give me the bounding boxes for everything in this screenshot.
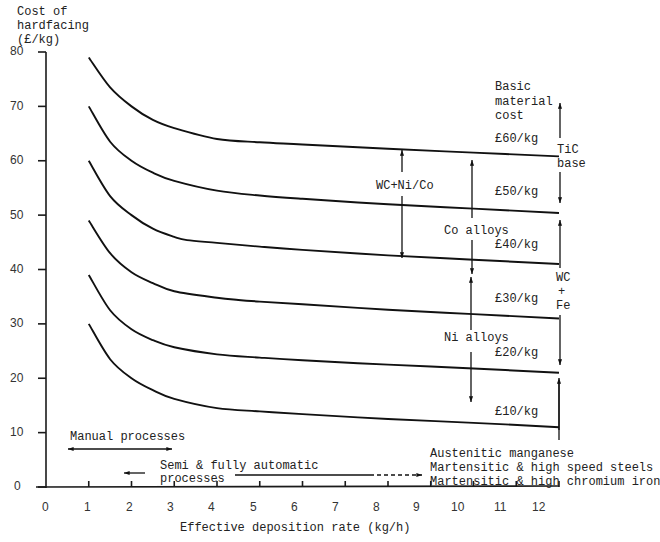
x-tick-11: 11 — [494, 500, 506, 514]
series-curve-4 — [89, 275, 559, 373]
series-label-20: £20/kg — [495, 346, 538, 360]
annotation-material-3: Martensitic & high chromium iron — [430, 475, 660, 489]
x-tick-2: 2 — [126, 500, 133, 514]
x-tick-1: 1 — [84, 500, 91, 514]
series-label-60: £60/kg — [495, 132, 538, 146]
y-tick-0: 0 — [14, 479, 21, 493]
y-tick-60: 60 — [10, 153, 23, 167]
y-tick-40: 40 — [10, 262, 23, 276]
annotation-tic-1: TiC — [557, 143, 579, 157]
annotation-semi-auto-2: processes — [160, 472, 225, 486]
annotation-ni-alloys: Ni alloys — [444, 331, 509, 345]
legend-heading-2: material — [495, 95, 553, 109]
x-tick-0: 0 — [42, 500, 49, 514]
series-label-40: £40/kg — [495, 238, 538, 252]
series-label-10: £10/kg — [495, 405, 538, 419]
y-tick-70: 70 — [10, 99, 23, 113]
annotation-semi-auto-1: Semi & fully automatic — [160, 459, 318, 473]
annotation-co-alloys: Co alloys — [444, 224, 509, 238]
x-tick-12: 12 — [532, 500, 545, 514]
x-tick-9: 9 — [413, 500, 420, 514]
y-tick-80: 80 — [10, 44, 23, 58]
series-label-50: £50/kg — [495, 185, 538, 199]
y-axis-label-line1: Cost of — [17, 5, 67, 19]
x-tick-7: 7 — [332, 500, 339, 514]
y-tick-50: 50 — [10, 208, 23, 222]
x-tick-6: 6 — [291, 500, 298, 514]
x-tick-10: 10 — [451, 500, 464, 514]
annotation-manual-processes: Manual processes — [70, 430, 185, 444]
y-tick-20: 20 — [10, 371, 23, 385]
x-tick-8: 8 — [373, 500, 380, 514]
y-tick-30: 30 — [10, 316, 23, 330]
y-axis-label-line3: (£/kg) — [17, 33, 60, 47]
annotation-material-2: Martensitic & high speed steels — [430, 461, 653, 475]
x-tick-3: 3 — [167, 500, 174, 514]
annotation-material-1: Austenitic manganese — [430, 447, 574, 461]
x-axis-label: Effective deposition rate (kg/h) — [180, 521, 410, 535]
series-curve-0 — [89, 57, 559, 156]
annotation-wc-nico: WC+Ni/Co — [376, 179, 434, 193]
x-tick-5: 5 — [250, 500, 257, 514]
legend-heading-1: Basic — [495, 80, 531, 94]
annotation-tic-2: base — [557, 157, 586, 171]
x-tick-4: 4 — [208, 500, 215, 514]
series-label-30: £30/kg — [495, 292, 538, 306]
legend-heading-3: cost — [495, 109, 524, 123]
annotation-wcfe-2: + — [558, 285, 565, 299]
annotation-wcfe-1: WC — [556, 271, 570, 285]
y-tick-10: 10 — [10, 425, 23, 439]
y-axis-label-line2: hardfacing — [17, 19, 89, 33]
annotation-wcfe-3: Fe — [556, 299, 570, 313]
